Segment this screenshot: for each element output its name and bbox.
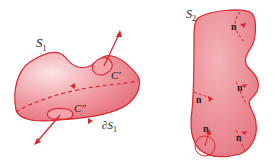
normal-label: n bbox=[196, 95, 202, 105]
normal-label: n bbox=[231, 22, 237, 32]
label-boundary-s1: ∂S1 bbox=[102, 120, 117, 134]
label-c-double-prime: C″ bbox=[74, 103, 86, 114]
surface-s1 bbox=[15, 30, 140, 145]
normal-label: n bbox=[236, 133, 242, 143]
label-s2: S2 bbox=[186, 8, 196, 23]
surface-s2 bbox=[191, 10, 258, 157]
label-s1: S1 bbox=[36, 36, 47, 53]
normal-label: n bbox=[203, 124, 209, 134]
label-c-prime: C′ bbox=[111, 70, 121, 81]
normal-label: n bbox=[237, 83, 243, 93]
